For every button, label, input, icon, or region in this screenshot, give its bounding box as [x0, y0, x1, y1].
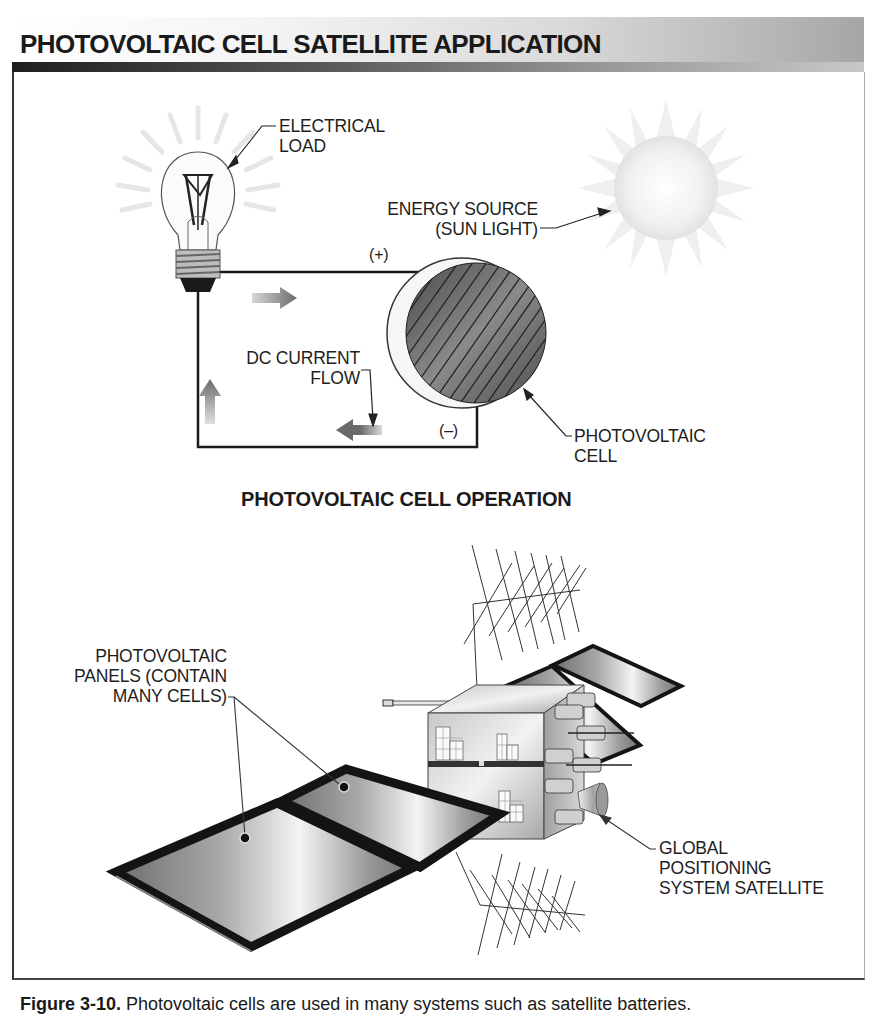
label-line: PANELS (CONTAIN [60, 666, 227, 686]
label-line: PHOTOVOLTAIC [574, 426, 706, 446]
label-negative-terminal: (–) [439, 421, 458, 441]
label-photovoltaic-panels: PHOTOVOLTAIC PANELS (CONTAIN MANY CELLS) [60, 646, 227, 706]
label-line: MANY CELLS) [60, 686, 227, 706]
label-line: DC CURRENT [210, 348, 360, 368]
label-line: ELECTRICAL [279, 116, 385, 136]
panel-pointer-dot [339, 782, 349, 792]
label-energy-source: ENERGY SOURCE (SUN LIGHT) [376, 199, 538, 239]
figure-caption: Figure 3-10. Photovoltaic cells are used… [20, 994, 691, 1015]
figure-caption-text: Photovoltaic cells are used in many syst… [126, 994, 691, 1014]
label-positive-terminal: (+) [369, 245, 388, 265]
label-gps-satellite: GLOBAL POSITIONING SYSTEM SATELLITE [659, 838, 824, 898]
label-line: FLOW [210, 368, 360, 388]
label-line: GLOBAL [659, 838, 824, 858]
label-photovoltaic-cell: PHOTOVOLTAIC CELL [574, 426, 706, 466]
label-line: SYSTEM SATELLITE [659, 878, 824, 898]
label-line: (SUN LIGHT) [376, 219, 538, 239]
lower-antenna-icon [456, 852, 585, 955]
label-line: POSITIONING [659, 858, 824, 878]
photovoltaic-cell-icon [384, 226, 574, 424]
label-dc-current-flow: DC CURRENT FLOW [210, 348, 360, 388]
label-line: LOAD [279, 136, 385, 156]
panel-pointer-dot [240, 833, 250, 843]
diagram-subtitle: PHOTOVOLTAIC CELL OPERATION [241, 488, 572, 511]
label-line: CELL [574, 446, 706, 466]
label-line: PHOTOVOLTAIC [60, 646, 227, 666]
label-line: ENERGY SOURCE [376, 199, 538, 219]
figure-number: Figure 3-10. [20, 994, 121, 1014]
sun-icon [578, 100, 754, 276]
label-electrical-load: ELECTRICAL LOAD [279, 116, 385, 156]
left-solar-panels [116, 769, 500, 951]
